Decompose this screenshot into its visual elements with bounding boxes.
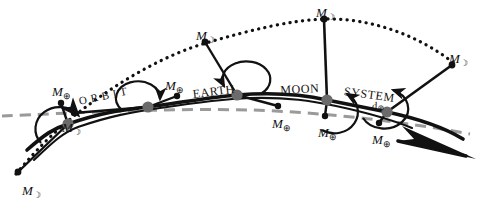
figure-canvas: O R B I T EARTH MOON SYSTEM M⊕ M⊕ M⊕ M⊕ … [0,0,481,207]
word-label-moon: MOON [280,82,320,96]
diagram-svg [0,0,481,207]
